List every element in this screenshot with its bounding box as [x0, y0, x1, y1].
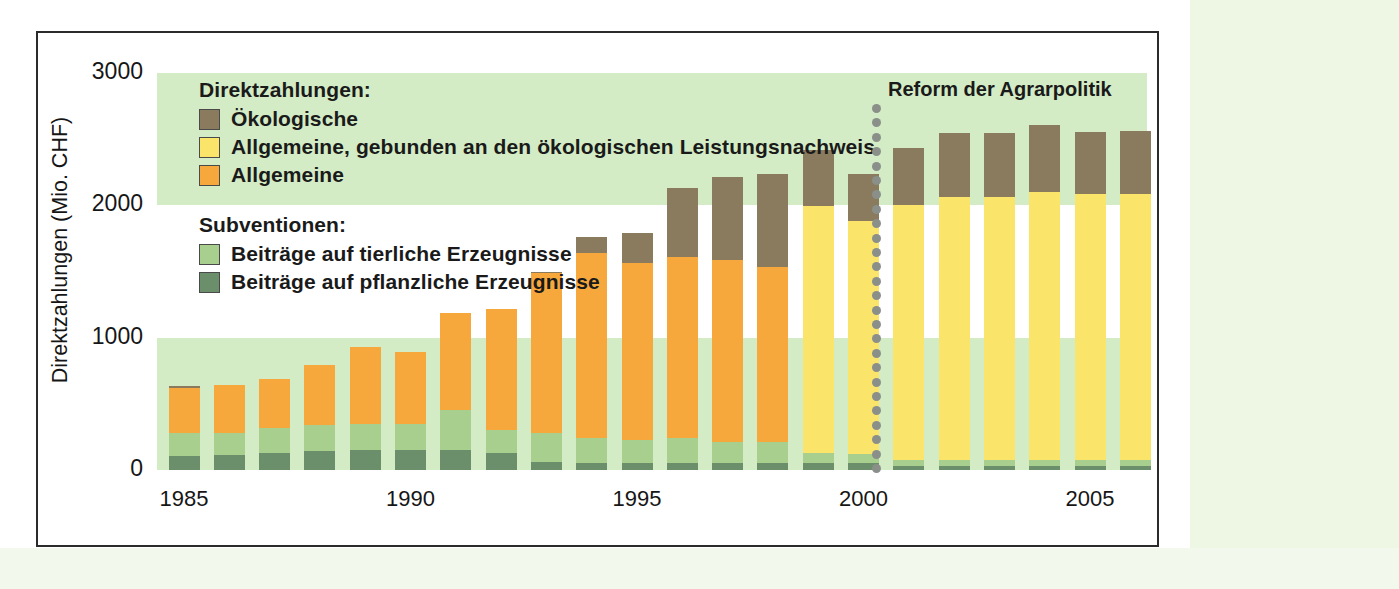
legend-direktzahlungen-item: Allgemeine [199, 163, 899, 187]
reform-line-dot [872, 392, 881, 401]
bar-segment [259, 379, 290, 427]
bar-segment [169, 456, 200, 470]
bar-2004 [1029, 125, 1060, 470]
bar-segment [350, 450, 381, 470]
y-axis-title: Direktzahlungen (Mio. CHF) [48, 0, 78, 60]
bar-segment [576, 438, 607, 462]
bar-segment [395, 450, 426, 470]
bar-2003 [984, 133, 1015, 470]
bar-segment [486, 309, 517, 429]
x-tick-label-1995: 1995 [592, 486, 682, 512]
bar-segment [939, 133, 970, 197]
x-tick-label-2000: 2000 [819, 486, 909, 512]
legend: Direktzahlungen: ÖkologischeAllgemeine, … [199, 78, 899, 298]
legend-swatch-icon [199, 137, 220, 158]
reform-line-dot [872, 205, 881, 214]
reform-line-dot [872, 320, 881, 329]
bar-segment [667, 438, 698, 462]
reform-line-dot [872, 378, 881, 387]
bar-segment [667, 463, 698, 470]
reform-line-dot [872, 349, 881, 358]
bar-segment [757, 463, 788, 470]
legend-swatch-icon [199, 165, 220, 186]
bar-segment [576, 463, 607, 470]
bar-segment [531, 462, 562, 470]
legend-group-title-direktzahlungen: Direktzahlungen: [199, 78, 899, 102]
bar-segment [214, 455, 245, 470]
bar-1986 [214, 385, 245, 470]
bar-segment [712, 442, 743, 463]
reform-line-dot [872, 162, 881, 171]
legend-item-label: Beiträge auf pflanzliche Erzeugnisse [231, 270, 600, 294]
reform-line-dot [872, 363, 881, 372]
bar-segment [304, 365, 335, 425]
bar-segment [1120, 466, 1151, 470]
reform-line-dot [872, 133, 881, 142]
reform-line-dot [872, 104, 881, 113]
bar-segment [304, 451, 335, 470]
bar-segment [304, 425, 335, 451]
legend-subventionen-item: Beiträge auf tierliche Erzeugnisse [199, 242, 899, 266]
bar-segment [939, 197, 970, 460]
x-tick-label-1985: 1985 [139, 486, 229, 512]
reform-line-dot [872, 306, 881, 315]
bar-segment [440, 450, 471, 470]
bar-segment [259, 428, 290, 453]
bar-segment [1075, 132, 1106, 194]
legend-group-direktzahlungen: ÖkologischeAllgemeine, gebunden an den ö… [199, 107, 899, 187]
reform-line-dot [872, 147, 881, 156]
legend-subventionen-item: Beiträge auf pflanzliche Erzeugnisse [199, 270, 899, 294]
bar-2002 [939, 133, 970, 470]
reform-dotted-line [872, 104, 881, 482]
reform-line-dot [872, 190, 881, 199]
bar-segment [757, 442, 788, 464]
bar-segment [1029, 466, 1060, 470]
reform-line-dot [872, 334, 881, 343]
reform-line-dot [872, 406, 881, 415]
legend-spacer [199, 191, 899, 213]
page-background-wash-bottom [0, 548, 1399, 589]
reform-line-dot [872, 421, 881, 430]
legend-item-label: Allgemeine [231, 163, 344, 187]
bar-segment [214, 385, 245, 433]
reform-line-dot [872, 176, 881, 185]
legend-group-title-subventionen: Subventionen: [199, 213, 899, 237]
y-tick-label-2000: 2000 [23, 190, 143, 217]
bar-segment [169, 433, 200, 456]
bar-1990 [395, 352, 426, 470]
bar-segment [350, 424, 381, 450]
bar-1992 [486, 309, 517, 470]
bar-segment [984, 133, 1015, 197]
bar-segment [622, 440, 653, 463]
bar-segment [803, 463, 834, 470]
bar-1989 [350, 347, 381, 470]
reform-line-dot [872, 262, 881, 271]
bar-segment [984, 466, 1015, 470]
bar-segment [984, 197, 1015, 460]
bar-segment [531, 433, 562, 462]
bar-segment [1120, 194, 1151, 460]
reform-line-dot [872, 219, 881, 228]
figure-root: Direktzahlungen (Mio. CHF) 0100020003000… [0, 0, 1399, 589]
reform-line-dot [872, 234, 881, 243]
reform-annotation-label: Reform der Agrarpolitik [888, 78, 1112, 101]
bar-segment [939, 466, 970, 470]
reform-line-dot [872, 464, 881, 473]
legend-direktzahlungen-item: Ökologische [199, 107, 899, 131]
bar-2005 [1075, 132, 1106, 470]
bar-segment [440, 313, 471, 410]
bar-1985 [169, 386, 200, 470]
bar-segment [1075, 194, 1106, 460]
bar-segment [214, 433, 245, 455]
bar-2006 [1120, 131, 1151, 470]
bar-segment [486, 453, 517, 470]
bar-segment [259, 453, 290, 470]
bar-segment [1029, 192, 1060, 460]
bar-segment [803, 453, 834, 463]
x-tick-label-1990: 1990 [366, 486, 456, 512]
y-tick-label-3000: 3000 [23, 58, 143, 85]
legend-swatch-icon [199, 272, 220, 293]
bar-1987 [259, 379, 290, 470]
legend-direktzahlungen-item: Allgemeine, gebunden an den ökologischen… [199, 135, 899, 159]
bar-segment [486, 430, 517, 453]
